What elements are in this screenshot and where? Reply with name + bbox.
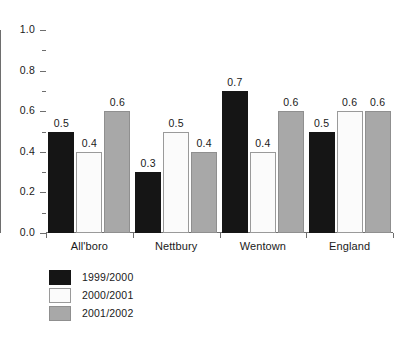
- legend-item: 2001/2002: [49, 305, 133, 321]
- y-tick-minor: [42, 172, 46, 173]
- bar: [76, 152, 102, 233]
- black-swatch: [49, 270, 71, 285]
- bar-value-label: 0.4: [70, 137, 108, 149]
- y-tick-minor: [42, 91, 46, 92]
- y-tick-major: [40, 152, 46, 153]
- x-tick: [46, 233, 47, 238]
- bar: [278, 111, 304, 233]
- x-category-label: Wentown: [220, 240, 307, 252]
- x-category-label: England: [306, 240, 393, 252]
- y-tick-major: [40, 192, 46, 193]
- legend-item: 1999/2000: [49, 269, 133, 285]
- legend-item-label: 2000/2001: [82, 289, 133, 301]
- bar-value-label: 0.4: [185, 137, 223, 149]
- y-tick-minor: [42, 213, 46, 214]
- x-category-label: All'boro: [46, 240, 133, 252]
- x-tick: [306, 233, 307, 238]
- bar: [222, 91, 248, 233]
- legend-item-label: 1999/2000: [82, 271, 133, 283]
- x-tick: [220, 233, 221, 238]
- bar-value-label: 0.6: [98, 96, 136, 108]
- bar-value-label: 0.3: [129, 157, 167, 169]
- y-tick-minor: [42, 50, 46, 51]
- bar-value-label: 0.5: [42, 117, 80, 129]
- bar: [191, 152, 217, 233]
- bar: [337, 111, 363, 233]
- x-tick: [393, 233, 394, 238]
- bar-value-label: 0.5: [303, 117, 341, 129]
- gray-swatch: [49, 306, 71, 321]
- chart-legend: 1999/20002000/20012001/2002: [49, 269, 133, 323]
- y-axis-line: [0, 30, 1, 233]
- legend-item: 2000/2001: [49, 287, 133, 303]
- y-tick-major: [40, 111, 46, 112]
- y-tick-label: 1.0: [3, 23, 35, 35]
- y-tick-minor: [42, 132, 46, 133]
- bar-chart: 1.00.80.60.40.20.0 0.50.40.60.30.50.40.7…: [0, 0, 413, 348]
- bar-value-label: 0.5: [157, 117, 195, 129]
- bar-value-label: 0.6: [272, 96, 310, 108]
- bar: [104, 111, 130, 233]
- bar: [250, 152, 276, 233]
- y-tick-major: [40, 71, 46, 72]
- y-tick-label: 0.4: [3, 145, 35, 157]
- bar: [365, 111, 391, 233]
- y-tick-major: [40, 30, 46, 31]
- bar-value-label: 0.4: [244, 137, 282, 149]
- x-tick: [133, 233, 134, 238]
- y-tick-label: 0.2: [3, 185, 35, 197]
- x-category-label: Nettbury: [133, 240, 220, 252]
- bar: [309, 132, 335, 234]
- y-tick-label: 0.8: [3, 64, 35, 76]
- legend-item-label: 2001/2002: [82, 307, 133, 319]
- bar-value-label: 0.7: [216, 76, 254, 88]
- bar: [135, 172, 161, 233]
- y-tick-label: 0.0: [3, 226, 35, 238]
- bar-value-label: 0.6: [359, 96, 397, 108]
- white-swatch: [49, 288, 71, 303]
- y-tick-label: 0.6: [3, 104, 35, 116]
